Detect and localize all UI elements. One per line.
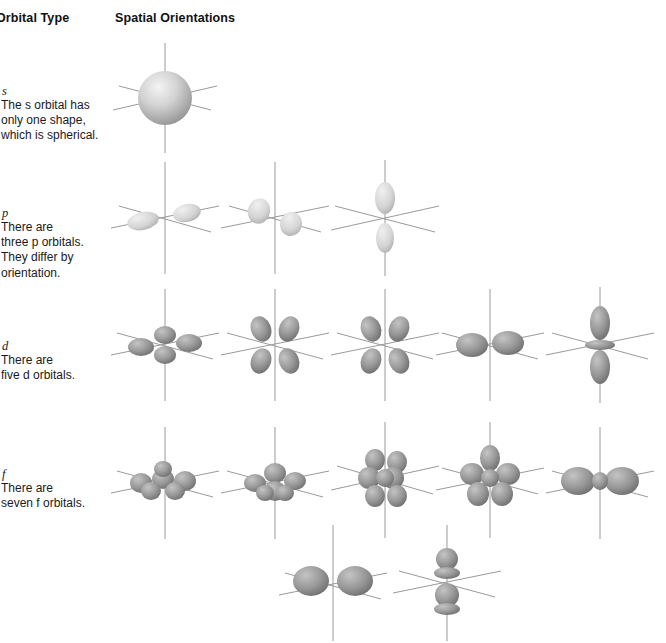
axes-icon: [436, 289, 544, 401]
orbital-symbol-s: s: [0, 85, 118, 98]
lobe: [275, 313, 303, 345]
desc-line: seven f orbitals.: [1, 496, 85, 510]
f-orbital-3-diagram: [325, 420, 445, 540]
lobe: [337, 566, 373, 596]
lobe: [176, 334, 202, 352]
lobe: [154, 326, 176, 344]
column-header-orbital-type: Orbital Type: [0, 11, 69, 25]
f-orbital-6-diagram: [273, 523, 393, 643]
lobe: [247, 345, 275, 377]
lobe: [387, 485, 407, 507]
f-orbital-1-diagram: [105, 423, 225, 543]
d-orbital-5-diagram: [540, 285, 660, 405]
p-orbital-y-diagram: [215, 158, 335, 278]
d-orbital-2-diagram: [215, 285, 335, 405]
d-orbital-3-diagram: [325, 285, 445, 405]
desc-line: They differ by: [1, 250, 73, 264]
lobe: [171, 201, 202, 224]
lobe: [376, 223, 394, 253]
p-orbital-x-diagram: [105, 158, 225, 278]
lobe: [590, 350, 610, 384]
desc-line: only one shape,: [1, 113, 86, 127]
desc-line: The s orbital has: [1, 98, 90, 112]
lobe: [436, 548, 458, 570]
torus: [434, 567, 460, 579]
orbital-description-d: There are five d orbitals.: [0, 353, 118, 383]
axes-icon: [331, 160, 439, 276]
desc-line: There are: [1, 353, 53, 367]
lobe: [375, 182, 395, 214]
orbital-type-block-s: s The s orbital has only one shape, whic…: [0, 85, 118, 144]
axes-icon: [331, 289, 439, 401]
lobe: [385, 313, 413, 345]
lobe: [275, 345, 303, 377]
lobe: [460, 463, 484, 485]
lobe: [141, 482, 161, 500]
lobe: [605, 467, 639, 495]
lobe: [456, 333, 488, 357]
lobe: [492, 331, 524, 355]
lobe: [256, 485, 274, 501]
desc-line: orientation.: [1, 266, 60, 280]
axes-icon: [221, 162, 329, 274]
lobe: [365, 485, 385, 507]
orbital-description-f: There are seven f orbitals.: [0, 481, 118, 511]
orbital-symbol-p: p: [0, 207, 118, 220]
lobe: [277, 209, 305, 239]
lobe: [154, 461, 172, 477]
lobe: [385, 345, 413, 377]
orbital-type-block-f: f There are seven f orbitals.: [0, 468, 118, 511]
orbital-symbol-f: f: [0, 468, 118, 481]
lobe: [481, 469, 499, 487]
orbital-type-block-p: p There are three p orbitals. They diffe…: [0, 207, 118, 281]
lobe: [154, 346, 176, 364]
lobe: [376, 469, 394, 487]
d-orbital-1-diagram: [105, 285, 225, 405]
lobe: [357, 313, 385, 345]
lobe: [276, 485, 294, 501]
lobe: [590, 306, 610, 340]
s-orbital-sphere: [138, 71, 192, 125]
orbital-description-s: The s orbital has only one shape, which …: [0, 98, 118, 144]
lobe: [264, 463, 286, 483]
f-orbital-4-diagram: [430, 420, 550, 540]
lobe: [293, 566, 329, 596]
lobe: [357, 345, 385, 377]
lobe: [496, 463, 520, 485]
orbital-description-p: There are three p orbitals. They differ …: [0, 220, 118, 281]
p-orbital-z-diagram: [325, 158, 445, 278]
lobe: [561, 467, 595, 495]
axes-icon: [111, 289, 219, 401]
torus: [434, 603, 460, 615]
axes-icon: [221, 289, 329, 401]
lobe: [247, 313, 275, 345]
orbital-symbol-d: d: [0, 340, 118, 353]
lobe: [165, 482, 185, 500]
lobe: [480, 445, 500, 471]
axes-icon: [111, 162, 219, 274]
torus: [585, 340, 615, 350]
desc-line: three p orbitals.: [1, 235, 84, 249]
f-orbital-7-diagram: [387, 523, 507, 643]
desc-line: which is spherical.: [1, 128, 98, 142]
lobe: [128, 338, 154, 356]
lobe: [125, 209, 160, 233]
column-header-spatial-orientations: Spatial Orientations: [115, 11, 235, 25]
orbital-type-block-d: d There are five d orbitals.: [0, 340, 118, 383]
lobe: [592, 472, 608, 490]
d-orbital-4-diagram: [430, 285, 550, 405]
s-orbital-diagram: [105, 38, 225, 158]
desc-line: five d orbitals.: [1, 368, 75, 382]
desc-line: There are: [1, 481, 53, 495]
desc-line: There are: [1, 220, 53, 234]
f-orbital-5-diagram: [540, 423, 660, 543]
